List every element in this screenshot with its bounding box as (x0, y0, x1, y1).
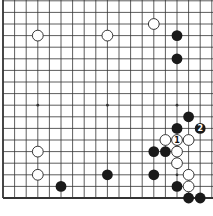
white-stone (183, 181, 194, 192)
black-stone (183, 111, 194, 122)
black-stone (160, 146, 171, 157)
white-stone (160, 135, 171, 146)
board-grid (3, 0, 213, 198)
white-stone (183, 135, 194, 146)
move-number: 1 (174, 136, 180, 145)
white-stone (102, 30, 113, 41)
white-stone (32, 30, 43, 41)
go-board: 21 (0, 0, 213, 216)
black-stone (172, 30, 183, 41)
star-point (176, 173, 179, 176)
white-stone (172, 158, 183, 169)
star-point (176, 104, 179, 107)
black-stone (172, 181, 183, 192)
move-number: 2 (197, 124, 203, 133)
black-stone (102, 169, 113, 180)
white-stone (183, 169, 194, 180)
black-stone: 2 (195, 123, 206, 134)
black-stone (148, 169, 159, 180)
white-stone (32, 169, 43, 180)
black-stone (56, 181, 67, 192)
white-stone (172, 146, 183, 157)
black-stone (183, 193, 194, 204)
white-stone (148, 19, 159, 30)
white-stone: 1 (172, 135, 183, 146)
black-stone (172, 53, 183, 64)
star-point (106, 104, 109, 107)
black-stone (195, 193, 206, 204)
star-point (36, 104, 39, 107)
white-stone (32, 146, 43, 157)
black-stone (148, 146, 159, 157)
black-stone (172, 123, 183, 134)
